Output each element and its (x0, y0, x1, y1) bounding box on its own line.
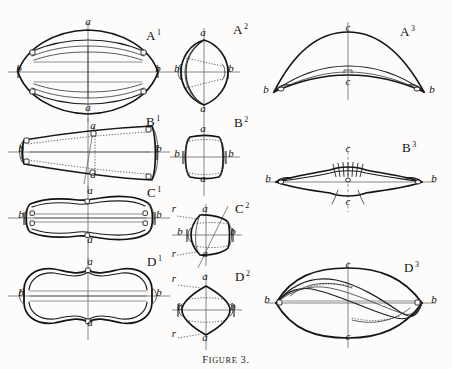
axis-label-B3-b-2: b (265, 172, 271, 184)
axis-label-C1-b-3: b (156, 208, 162, 220)
axis-label-C2-a-1: a (202, 247, 208, 259)
shape-C1-node-bl (30, 221, 34, 225)
shape-B1-node-bl (24, 159, 29, 164)
axis-label-A2-a-0: a (200, 26, 206, 38)
axis-label-D2-b-2: b (177, 300, 183, 312)
axis-label-B1-a-0: a (90, 119, 96, 131)
figure-caption-word: FIGURE (202, 354, 237, 365)
panel-label-B2: B2 (234, 115, 248, 130)
axis-label-A2-b-2: b (174, 62, 180, 74)
panel-label-A1: A1 (146, 28, 161, 43)
shape-B1-outer (23, 126, 156, 180)
shape-D1-fold-br (88, 302, 147, 320)
axis-label-A3-c-0: c (346, 21, 351, 33)
panel-label-C1: C1 (147, 185, 161, 200)
shape-D3-crest-left (290, 283, 352, 296)
shape-A3-node-right (414, 87, 420, 91)
panel-exponent-B1: 1 (156, 114, 160, 123)
panel-label-A3: A3 (400, 24, 415, 39)
axis-label-C1-a-0: a (87, 184, 93, 196)
shape-D3-sigmoid-upper (276, 279, 422, 316)
shape-C1-node-top (85, 199, 89, 203)
shape-C1-node-tl (30, 211, 34, 215)
shape-D1-node-top (86, 268, 91, 273)
shape-D1-fold-bl (29, 302, 88, 320)
axis-label-B1-b-2: b (18, 142, 24, 154)
shape-B3-foramen (346, 178, 351, 182)
shape-B3-node-right (415, 180, 420, 184)
axis-label-B1-b-3: b (156, 142, 162, 154)
axis-label-D1-a-0: a (87, 255, 93, 267)
axis-label-C2-b-2: b (177, 225, 183, 237)
axis-label-B2-a-1: a (200, 172, 206, 184)
axis-label-C2-r-4: r (172, 202, 177, 214)
axis-label-D3-b-2: b (264, 293, 270, 305)
shape-A1-node-tl (30, 50, 35, 55)
axis-label-D1-b-2: b (18, 286, 24, 298)
axis-label-B1-a-1: a (90, 168, 96, 180)
panel-label-D2: D2 (235, 269, 250, 284)
axis-label-B3-c-1: c (346, 195, 351, 207)
figure-caption-smallcaps: IGURE (209, 356, 238, 365)
shape-D1-fold-tl (29, 272, 88, 290)
shape-C1-node-br (143, 221, 147, 225)
shape-B3-node-left (278, 180, 283, 184)
panel-exponent-A2: 2 (244, 22, 248, 31)
axis-label-B2-b-3: b (228, 147, 234, 159)
axis-label-A2-a-1: a (200, 102, 206, 114)
shape-A1-node-bl (30, 89, 35, 94)
axis-label-C1-a-1: a (87, 233, 93, 245)
axis-label-D1-a-1: a (87, 316, 93, 328)
axis-label-B2-b-2: b (174, 147, 180, 159)
panel-C1 (8, 186, 170, 262)
axis-label-B2-a-0: a (200, 122, 206, 134)
axis-label-D2-a-0: a (202, 270, 208, 282)
panel-label-B3: B3 (402, 140, 416, 155)
figure-drawing: A1aabbA2aabbA3ccbbB1aabbB2aabbB3ccbbC1aa… (0, 0, 452, 369)
axis-label-C1-b-2: b (18, 208, 24, 220)
shape-D3-node-right (415, 300, 420, 305)
axis-label-B3-b-3: b (431, 172, 437, 184)
panel-label-C2: C2 (235, 201, 249, 216)
axis-label-A1-a-0: a (85, 15, 91, 27)
figure-caption-number: 3. (241, 354, 250, 365)
panel-label-D3: D3 (404, 260, 419, 275)
axis-label-A3-c-1: c (346, 75, 351, 87)
panel-label-B1: B1 (146, 114, 160, 129)
panel-exponent-C2: 2 (245, 201, 249, 210)
axis-label-A1-b-2: b (16, 62, 22, 74)
shape-A1-node-tr (141, 50, 146, 55)
panel-label-A2: A2 (233, 22, 248, 37)
panel-exponent-A1: 1 (157, 28, 161, 37)
shape-D3-sigmoid-inner (280, 287, 422, 315)
axis-label-D3-b-3: b (431, 293, 437, 305)
axis-label-D2-b-3: b (230, 300, 236, 312)
panel-exponent-D3: 3 (415, 260, 419, 269)
shape-C1-median-lines (34, 214, 146, 222)
panel-exponent-A3: 3 (411, 24, 415, 33)
panel-exponent-D2: 2 (246, 269, 250, 278)
axis-label-D2-r-5: r (172, 327, 177, 339)
panel-exponent-D1: 1 (158, 254, 162, 263)
shape-B1-node-tl (24, 138, 29, 143)
axis-label-C2-b-3: b (230, 225, 236, 237)
shape-B1-node-tm (91, 131, 96, 136)
shape-B1-node-br (146, 174, 151, 179)
shape-A1-node-br (141, 89, 146, 94)
shape-C1-node-tr (143, 211, 147, 215)
axis-label-A3-b-3: b (429, 83, 435, 95)
axis-label-D3-c-1: c (346, 330, 351, 342)
shape-A2-outer (181, 40, 228, 105)
axis-label-A2-b-3: b (228, 62, 234, 74)
panel-B1 (8, 118, 170, 192)
panel-exponent-C1: 1 (157, 185, 161, 194)
axis-label-D1-b-3: b (156, 286, 162, 298)
axis-label-A3-b-2: b (263, 83, 269, 95)
shape-D3-node-left (277, 300, 282, 305)
panel-exponent-B3: 3 (412, 140, 416, 149)
panel-B3 (266, 146, 436, 212)
axis-label-A1-b-3: b (155, 62, 161, 74)
shape-B3-hatching (333, 162, 363, 177)
axis-label-D2-a-1: a (202, 331, 208, 343)
axis-label-A1-a-1: a (85, 101, 91, 113)
